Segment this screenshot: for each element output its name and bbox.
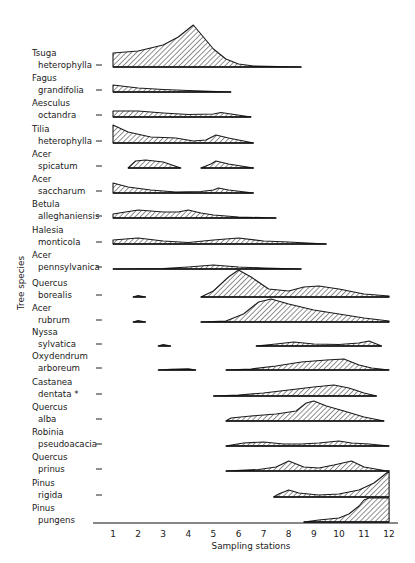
abundance-profile — [274, 471, 390, 497]
abundance-profile — [113, 85, 231, 92]
x-tick-label: 4 — [185, 529, 191, 539]
species-epithet-label: pseudoacacia — [38, 439, 97, 449]
species-row: Tiliaheterophylla — [31, 124, 254, 146]
species-row: Pinusrigida — [32, 471, 389, 500]
x-tick-label: 8 — [286, 529, 292, 539]
species-epithet-label: rubrum — [38, 315, 70, 325]
x-axis-label: Sampling stations — [212, 541, 291, 551]
species-epithet-label: dentata * — [38, 389, 79, 399]
y-axis-title: Tree species — [16, 256, 26, 311]
abundance-profile — [201, 270, 389, 297]
abundance-profile — [304, 498, 389, 522]
x-tick-label: 7 — [261, 529, 267, 539]
x-axis: 123456789101112Sampling stations — [93, 523, 398, 551]
species-genus-label: Acer — [32, 303, 52, 313]
species-row: Tsugaheterophylla — [31, 25, 301, 70]
species-row: Acersaccharum — [32, 174, 254, 196]
abundance-profile — [256, 341, 382, 346]
species-epithet-label: saccharum — [38, 186, 85, 196]
abundance-profile — [113, 25, 301, 67]
species-row: Quercusalba — [32, 401, 384, 424]
species-genus-label: Halesia — [32, 225, 64, 235]
species-genus-label: Acer — [32, 174, 52, 184]
species-genus-label: Robinia — [32, 427, 64, 437]
species-row: Nyssasylvatica — [32, 327, 382, 349]
species-genus-label: Quercus — [32, 402, 68, 412]
x-tick-label: 6 — [236, 529, 242, 539]
species-row: Betulaalleghaniensis — [32, 199, 276, 221]
abundance-profile — [201, 161, 254, 168]
species-epithet-label: alba — [38, 414, 56, 424]
x-tick-label: 3 — [160, 529, 166, 539]
species-genus-label: Fagus — [32, 73, 57, 83]
abundance-profile — [113, 125, 254, 143]
species-epithet-label: rigida — [38, 490, 63, 500]
x-tick-label: 1 — [110, 529, 116, 539]
abundance-profile — [226, 359, 389, 370]
abundance-profile — [113, 111, 251, 117]
species-epithet-label: spicatum — [38, 161, 78, 171]
species-epithet-label: octandra — [38, 110, 76, 120]
x-tick-label: 11 — [358, 529, 369, 539]
species-epithet-label: alleghaniensis — [38, 211, 100, 221]
species-genus-label: Acer — [32, 250, 52, 260]
abundance-profile — [226, 441, 389, 446]
x-tick-label: 5 — [211, 529, 217, 539]
species-row: Acerspicatum — [32, 149, 254, 171]
species-row: Fagusgrandifolia — [32, 73, 231, 95]
abundance-profile — [201, 299, 389, 322]
species-genus-label: Tilia — [31, 124, 49, 134]
species-epithet-label: prinus — [38, 464, 65, 474]
abundance-profile — [113, 210, 276, 218]
x-tick-label: 9 — [311, 529, 317, 539]
x-tick-label: 10 — [333, 529, 345, 539]
species-row: Oxydendrumarboreum — [32, 351, 389, 373]
abundance-profile — [113, 238, 326, 244]
species-row: Quercusborealis — [32, 270, 389, 300]
species-genus-label: Quercus — [32, 452, 68, 462]
species-row: Acerrubrum — [32, 299, 389, 325]
species-genus-label: Pinus — [32, 503, 55, 513]
x-tick-label: 2 — [135, 529, 141, 539]
species-epithet-label: monticola — [38, 237, 80, 247]
species-epithet-label: arboreum — [38, 363, 80, 373]
species-rows: TsugaheterophyllaFagusgrandifoliaAesculu… — [31, 25, 389, 525]
species-row: Robiniapseudoacacia — [32, 427, 389, 449]
abundance-profile — [226, 401, 384, 421]
species-epithet-label: pungens — [38, 515, 76, 525]
species-row: Acerpennsylvanica — [32, 250, 301, 272]
species-genus-label: Tsuga — [31, 48, 56, 58]
species-row: Halesiamonticola — [32, 225, 326, 247]
species-epithet-label: heterophylla — [38, 136, 92, 146]
species-genus-label: Oxydendrum — [32, 351, 88, 361]
species-epithet-label: heterophylla — [38, 60, 92, 70]
abundance-profile — [226, 461, 389, 471]
species-row: Quercusprinus — [32, 452, 389, 474]
species-row: Castaneadentata * — [32, 377, 377, 399]
species-epithet-label: sylvatica — [38, 339, 76, 349]
kite-diagram-chart: Tree species TsugaheterophyllaFagusgrand… — [0, 0, 415, 563]
species-epithet-label: borealis — [38, 290, 72, 300]
species-genus-label: Nyssa — [32, 327, 58, 337]
species-row: Pinuspungens — [32, 498, 389, 525]
abundance-profile — [213, 385, 376, 396]
abundance-profile — [128, 160, 181, 168]
species-genus-label: Castanea — [32, 377, 72, 387]
abundance-profile — [113, 183, 254, 193]
species-genus-label: Aesculus — [32, 98, 70, 108]
species-genus-label: Acer — [32, 149, 52, 159]
species-genus-label: Pinus — [32, 478, 55, 488]
x-tick-label: 12 — [383, 529, 394, 539]
species-epithet-label: grandifolia — [38, 85, 84, 95]
y-axis-label: Tree species — [16, 256, 26, 311]
species-epithet-label: pennsylvanica — [38, 262, 100, 272]
species-genus-label: Betula — [32, 199, 60, 209]
species-row: Aesculusoctandra — [32, 98, 251, 120]
species-genus-label: Quercus — [32, 278, 68, 288]
